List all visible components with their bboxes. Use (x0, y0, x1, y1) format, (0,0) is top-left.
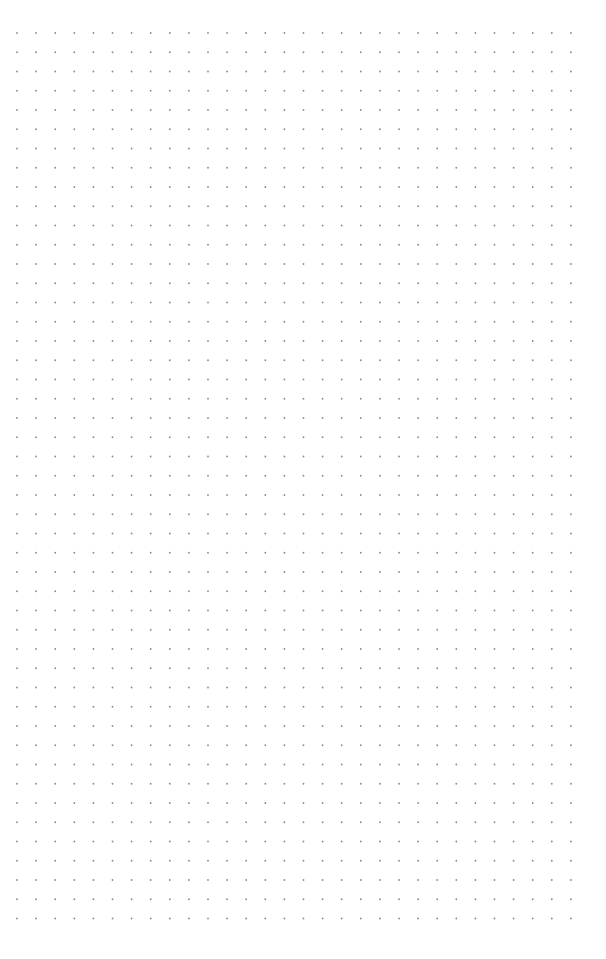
grid-dot (207, 302, 209, 304)
grid-dot (436, 148, 438, 150)
grid-dot (341, 71, 343, 73)
grid-dot (322, 321, 324, 323)
grid-dot (341, 167, 343, 169)
grid-dot (73, 340, 75, 342)
grid-dot (112, 90, 114, 92)
grid-dot (551, 225, 553, 227)
grid-dot (131, 90, 133, 92)
grid-dot (379, 263, 381, 265)
grid-dot (494, 321, 496, 323)
grid-dot (475, 359, 477, 361)
grid-dot (226, 71, 228, 73)
grid-dot (360, 90, 362, 92)
grid-dot (73, 359, 75, 361)
grid-dot (131, 687, 133, 689)
grid-dot (513, 667, 515, 669)
grid-dot (226, 282, 228, 284)
grid-dot (532, 764, 534, 766)
grid-dot (93, 552, 95, 554)
grid-dot (360, 687, 362, 689)
grid-dot (73, 90, 75, 92)
grid-dot (322, 109, 324, 111)
grid-dot (513, 436, 515, 438)
grid-dot (54, 571, 56, 573)
grid-dot (303, 436, 305, 438)
grid-dot (207, 321, 209, 323)
grid-dot (379, 456, 381, 458)
grid-dot (150, 764, 152, 766)
grid-dot (436, 879, 438, 881)
grid-dot (417, 71, 419, 73)
grid-dot (379, 821, 381, 823)
grid-dot (494, 513, 496, 515)
grid-dot (188, 648, 190, 650)
grid-dot (379, 590, 381, 592)
grid-dot (532, 629, 534, 631)
grid-dot (207, 90, 209, 92)
grid-dot (360, 513, 362, 515)
grid-dot (54, 744, 56, 746)
grid-dot (226, 398, 228, 400)
grid-dot (398, 148, 400, 150)
grid-dot (284, 552, 286, 554)
grid-dot (93, 494, 95, 496)
grid-dot (322, 802, 324, 804)
grid-dot (341, 205, 343, 207)
grid-dot (150, 456, 152, 458)
grid-dot (436, 71, 438, 73)
grid-dot (341, 821, 343, 823)
grid-dot (494, 552, 496, 554)
grid-dot (169, 51, 171, 53)
grid-dot (436, 687, 438, 689)
grid-dot (455, 417, 457, 419)
grid-dot (73, 436, 75, 438)
grid-dot (551, 109, 553, 111)
grid-dot (131, 51, 133, 53)
grid-dot (35, 244, 37, 246)
grid-dot (360, 51, 362, 53)
grid-dot (417, 841, 419, 843)
grid-dot (551, 436, 553, 438)
grid-dot (570, 590, 572, 592)
grid-dot (551, 841, 553, 843)
grid-dot (322, 590, 324, 592)
grid-dot (532, 379, 534, 381)
grid-dot (226, 90, 228, 92)
grid-dot (16, 51, 18, 53)
grid-dot (226, 841, 228, 843)
grid-dot (513, 51, 515, 53)
grid-dot (379, 629, 381, 631)
grid-dot (475, 282, 477, 284)
grid-dot (341, 436, 343, 438)
grid-dot (513, 109, 515, 111)
grid-dot (16, 821, 18, 823)
grid-dot (341, 186, 343, 188)
grid-dot (513, 764, 515, 766)
grid-dot (360, 744, 362, 746)
grid-dot (417, 51, 419, 53)
grid-dot (245, 128, 247, 130)
grid-dot (494, 205, 496, 207)
grid-dot (379, 436, 381, 438)
grid-dot (150, 302, 152, 304)
grid-dot (35, 340, 37, 342)
grid-dot (322, 744, 324, 746)
grid-dot (264, 90, 266, 92)
grid-dot (551, 629, 553, 631)
grid-dot (150, 629, 152, 631)
grid-dot (398, 687, 400, 689)
grid-dot (551, 340, 553, 342)
grid-dot (54, 282, 56, 284)
grid-dot (264, 321, 266, 323)
grid-dot (322, 51, 324, 53)
grid-dot (35, 590, 37, 592)
grid-dot (379, 667, 381, 669)
grid-dot (131, 379, 133, 381)
grid-dot (73, 475, 75, 477)
grid-dot (35, 629, 37, 631)
grid-dot (188, 244, 190, 246)
grid-dot (226, 167, 228, 169)
grid-dot (398, 282, 400, 284)
grid-dot (398, 590, 400, 592)
grid-dot (112, 379, 114, 381)
